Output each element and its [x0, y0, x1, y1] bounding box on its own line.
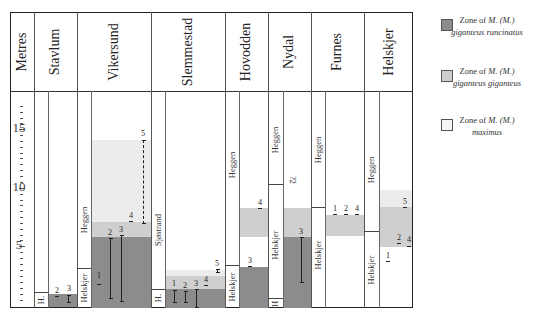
sample-range — [196, 289, 197, 308]
sample-label: 2 — [108, 229, 112, 237]
sample-label: 1 — [386, 252, 390, 260]
axis-tick — [20, 276, 23, 277]
axis-tick-label: 15 — [10, 120, 28, 136]
sample-label: 3 — [248, 257, 252, 265]
formation-divider — [48, 91, 49, 308]
axis-tick — [20, 141, 23, 142]
header-divider — [10, 91, 413, 92]
axis-tick — [20, 158, 23, 159]
axis-tick — [20, 112, 23, 113]
sample-range — [143, 140, 144, 224]
formation-boundary — [268, 184, 283, 185]
formation-label: H — [268, 299, 283, 308]
formation-text: Heggen — [271, 127, 281, 153]
formation-label: Heggen — [225, 140, 239, 190]
sample-label: 3 — [67, 285, 71, 293]
axis-tick-label: 10 — [10, 179, 28, 195]
formation-label: Heggen — [311, 120, 325, 180]
axis-tick — [20, 205, 23, 206]
legend-label-runcinatus: Zone of M. (M.) giganteus runcinatus — [432, 14, 542, 38]
zone-runcinatus — [240, 267, 268, 308]
formation-label: H. — [34, 293, 48, 307]
formation-label: Heggen — [364, 140, 379, 200]
formation-label: H. — [151, 290, 165, 306]
formation-label: Helskjer — [77, 270, 91, 306]
sample-marker — [344, 214, 348, 215]
column-header-slemmestad: Slemmestad — [151, 14, 225, 90]
formation-text: Helskjer — [79, 274, 89, 303]
sample-marker — [129, 221, 133, 222]
sample-label: 3 — [299, 228, 303, 236]
sample-label: 4 — [258, 199, 262, 207]
axis-tick — [20, 118, 23, 119]
sample-range — [217, 269, 218, 273]
column-title: Vikersund — [106, 23, 122, 80]
formation-divider — [325, 91, 326, 308]
sample-label: 4 — [407, 236, 411, 244]
column-title: Hovodden — [239, 23, 255, 81]
column-header-helskjer: Helskjer — [364, 14, 413, 90]
legend-label-maximus: Zone of M. (M.) maximus — [432, 114, 542, 138]
formation-boundary — [77, 268, 91, 269]
sample-marker — [97, 284, 101, 285]
sample-marker — [258, 208, 262, 209]
column-header-vikersund: Vikersund — [77, 14, 151, 90]
formation-boundary — [364, 231, 379, 232]
sample-label: 5 — [215, 260, 219, 268]
axis-tick — [20, 147, 23, 148]
sample-marker — [355, 214, 359, 215]
axis-tick — [20, 282, 23, 283]
axis-tick — [20, 294, 23, 295]
formation-text: Helskjer — [313, 241, 323, 270]
sample-label: 2 — [55, 287, 59, 295]
formation-text: Helskjer — [367, 256, 377, 285]
zone-giganteus — [284, 208, 311, 237]
formation-text: H. — [153, 294, 163, 302]
axis-tick-label: 5 — [10, 237, 28, 253]
sample-label: 2 — [183, 282, 187, 290]
legend-prefix: Zone of — [460, 15, 489, 25]
sample-range — [68, 295, 69, 303]
sample-label: 1 — [172, 280, 176, 288]
sample-range — [121, 235, 122, 302]
legend-taxon: M. (M.) — [488, 115, 514, 125]
sample-marker — [407, 246, 411, 247]
column-header-furnes: Furnes — [311, 14, 364, 90]
sample-label: 4 — [129, 212, 133, 220]
formation-text: Heggen — [313, 137, 323, 163]
axis-tick — [20, 200, 23, 201]
sample-marker — [248, 266, 252, 267]
sample-marker — [397, 243, 401, 244]
legend-taxon: M. (M.) — [488, 66, 514, 76]
axis-tick — [20, 264, 23, 265]
zone-runcinatus — [49, 294, 77, 307]
sample-range — [301, 237, 302, 283]
column-title: Slemmestad — [180, 18, 196, 86]
axis-tick — [20, 211, 23, 212]
sample-label: 1 — [97, 272, 101, 280]
zone-giganteus — [240, 208, 268, 237]
formation-text: H — [270, 300, 280, 306]
legend-label-giganteus: Zone of M. (M.) giganteus giganteus — [432, 65, 542, 89]
formation-label: Sjøstrand — [151, 180, 165, 280]
axis-tick — [20, 258, 23, 259]
axis-tick — [20, 223, 23, 224]
sample-marker — [333, 214, 337, 215]
column-header-hovodden: Hovodden — [225, 14, 268, 90]
axis-tick — [20, 176, 23, 177]
formation-label: Heggen — [268, 100, 283, 180]
legend-taxon: M. (M.) — [488, 15, 514, 25]
formation-label: Helskjer — [225, 267, 239, 307]
legend-subtaxon: giganteus giganteus — [453, 78, 521, 88]
axis-tick — [20, 170, 23, 171]
sample-marker — [386, 261, 390, 262]
formation-text: Heggen — [367, 157, 377, 183]
sample-label: 3 — [194, 280, 198, 288]
legend-subtaxon: giganteus runcinatus — [451, 27, 523, 37]
sample-label: 4 — [204, 276, 208, 284]
column-title: Helskjer — [381, 28, 397, 75]
axis-tick — [20, 217, 23, 218]
formation-text: Heggen — [227, 152, 237, 178]
sample-label: 5 — [141, 130, 145, 138]
axis-tick — [20, 106, 23, 107]
